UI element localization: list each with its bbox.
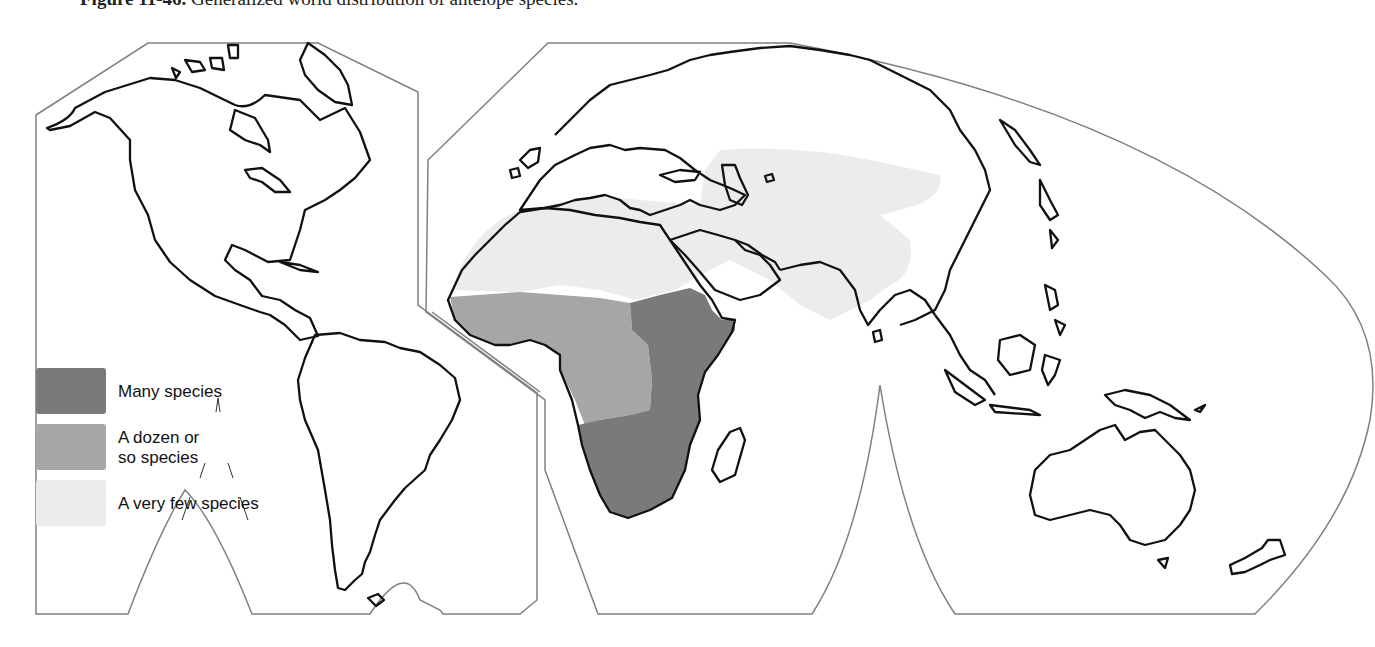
great-lakes (245, 168, 290, 192)
legend-label-dozen-line2: so species (118, 448, 199, 468)
legend-label-many: Many species (118, 382, 222, 402)
australia-coast (1030, 425, 1195, 545)
british-isles (510, 148, 540, 178)
range-dozen-species (450, 292, 652, 425)
kamchatka (1000, 120, 1040, 165)
madagascar (712, 428, 745, 482)
north-america-coast (47, 78, 370, 340)
pacific-islands (1195, 405, 1205, 412)
cuba (280, 262, 318, 272)
sulawesi (1042, 355, 1060, 385)
legend-label-dozen-line1: A dozen or (118, 428, 199, 448)
legend-label-very-few: A very few species (118, 494, 259, 514)
swatch-very-few-species (36, 480, 106, 526)
world-map (0, 0, 1375, 647)
legend-item-many-species: Many species (36, 368, 222, 414)
tasmania (1158, 558, 1168, 568)
south-america-coast (298, 333, 460, 590)
legend-item-very-few-species: A very few species (36, 480, 259, 526)
new-zealand (1230, 540, 1285, 574)
greenland-coast (300, 43, 352, 105)
hudson-bay (230, 110, 270, 152)
new-guinea (1105, 390, 1190, 420)
americas-frame (36, 43, 537, 614)
legend-label-dozen: A dozen or so species (118, 428, 199, 468)
black-sea (660, 170, 700, 182)
se-asia-coast (935, 315, 995, 395)
philippines (1045, 285, 1065, 335)
swatch-many-species (36, 368, 106, 414)
arctic-islands (172, 45, 238, 78)
legend-item-dozen-species: A dozen or so species (36, 424, 199, 470)
borneo (998, 335, 1035, 375)
japan (1040, 180, 1058, 248)
sri-lanka (873, 330, 882, 342)
swatch-dozen-species (36, 424, 106, 470)
